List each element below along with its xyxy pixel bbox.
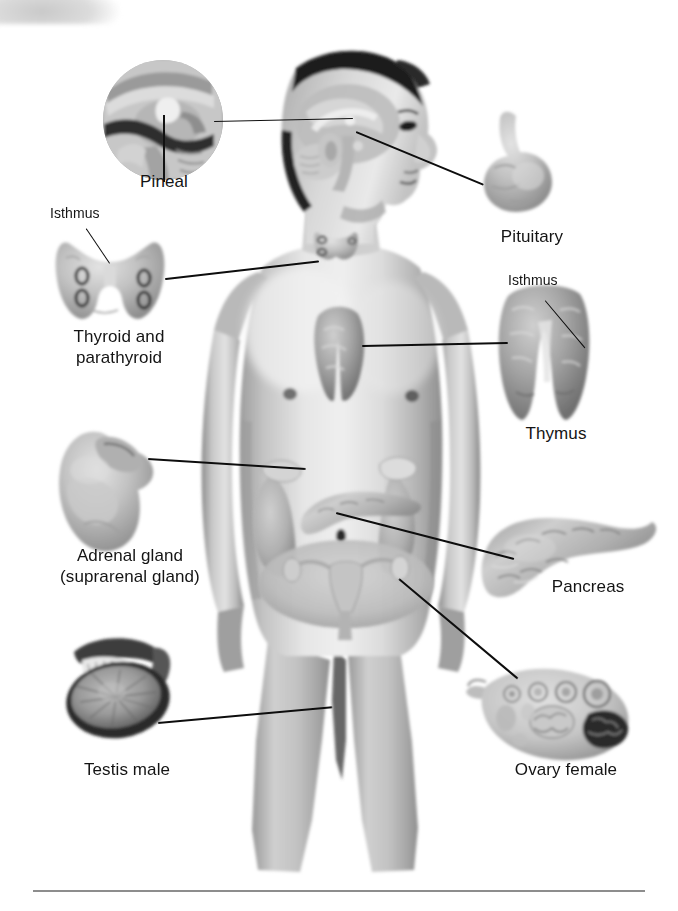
label-testis: Testis male — [42, 760, 212, 780]
head-profile — [282, 50, 438, 244]
ovary-illustration — [466, 669, 629, 761]
label-ovary: Ovary female — [486, 760, 646, 780]
label-thyroid-parathyroid-line1: Thyroid and — [26, 327, 212, 347]
label-thyroid-parathyroid-line2: parathyroid — [26, 348, 212, 368]
endocrine-diagram-page: Pineal Isthmus Thyroid and parathyroid A… — [0, 0, 678, 911]
adrenal-gland-illustration — [59, 432, 153, 551]
bottom-divider-rule — [33, 890, 645, 892]
pineal-inset-illustration — [103, 60, 223, 184]
thymus-illustration — [499, 285, 590, 420]
label-pituitary: Pituitary — [462, 227, 602, 247]
label-isthmus-thyroid: Isthmus — [50, 205, 140, 221]
label-pineal: Pineal — [108, 172, 220, 192]
thyroid-parathyroid-illustration — [56, 243, 165, 319]
label-pancreas: Pancreas — [518, 577, 658, 597]
testis-illustration — [61, 638, 175, 745]
label-adrenal-line2: (suprarenal gland) — [20, 567, 240, 587]
label-thymus: Thymus — [490, 424, 622, 444]
label-adrenal-line1: Adrenal gland — [20, 546, 240, 566]
label-isthmus-thymus: Isthmus — [508, 272, 598, 288]
pituitary-illustration — [484, 112, 552, 212]
